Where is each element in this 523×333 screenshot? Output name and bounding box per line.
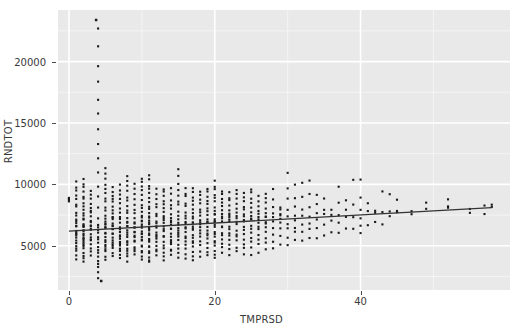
x-tick-mark [69, 291, 70, 295]
x-tick-label: 0 [49, 296, 89, 307]
x-tick-mark [361, 291, 362, 295]
x-axis-ticks: 02040 [0, 0, 523, 333]
y-axis-title: RNDTOT [3, 112, 14, 172]
x-tick-label: 40 [341, 296, 381, 307]
x-tick-label: 20 [195, 296, 235, 307]
x-axis-title: TMPRSD [0, 314, 523, 325]
x-tick-mark [215, 291, 216, 295]
scatter-plot-figure: 5000100001500020000 02040 TMPRSD RNDTOT [0, 0, 523, 333]
